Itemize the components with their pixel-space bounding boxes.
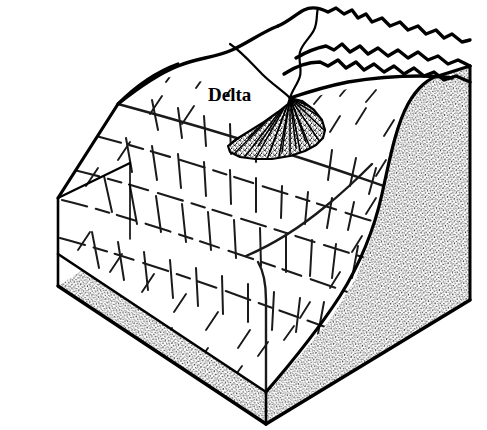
delta-block-diagram: Delta <box>0 0 487 430</box>
block-diagram-canvas: Delta <box>0 0 487 430</box>
delta-label: Delta <box>208 84 252 105</box>
